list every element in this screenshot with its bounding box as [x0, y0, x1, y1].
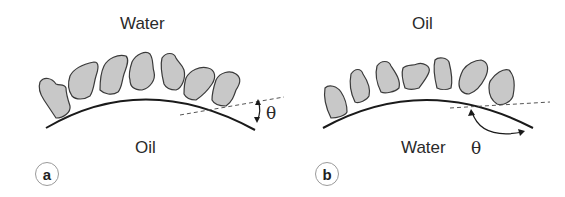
particle	[161, 54, 184, 91]
theta-label-b: θ	[471, 138, 481, 158]
particle	[100, 55, 128, 94]
panel-b: Oil Water θ b	[285, 0, 565, 197]
particles-a	[39, 52, 240, 118]
phase-label-top-b: Oil	[412, 14, 433, 34]
particle	[376, 62, 399, 93]
particle	[350, 70, 369, 103]
arrowhead-tangent	[468, 109, 475, 116]
panel-badge-a: a	[35, 162, 59, 186]
phase-label-bottom-b: Water	[401, 138, 446, 158]
phase-label-bottom-a: Oil	[135, 138, 156, 158]
particle	[129, 52, 154, 90]
panel-a: Water Oil θ a	[0, 0, 285, 197]
angle-arc-b	[472, 112, 523, 134]
phase-label-top-a: Water	[120, 14, 165, 34]
particle	[459, 60, 488, 94]
particle	[489, 70, 514, 105]
particle	[39, 78, 70, 118]
particle	[184, 67, 215, 100]
arrowhead-down	[254, 117, 260, 123]
particle	[212, 72, 240, 106]
particle	[324, 86, 347, 118]
panel-badge-b: b	[315, 162, 339, 186]
particle	[402, 63, 429, 89]
particle	[434, 58, 452, 90]
arrowhead-interface	[518, 129, 525, 136]
particle	[69, 62, 98, 99]
theta-label-a: θ	[266, 103, 276, 123]
